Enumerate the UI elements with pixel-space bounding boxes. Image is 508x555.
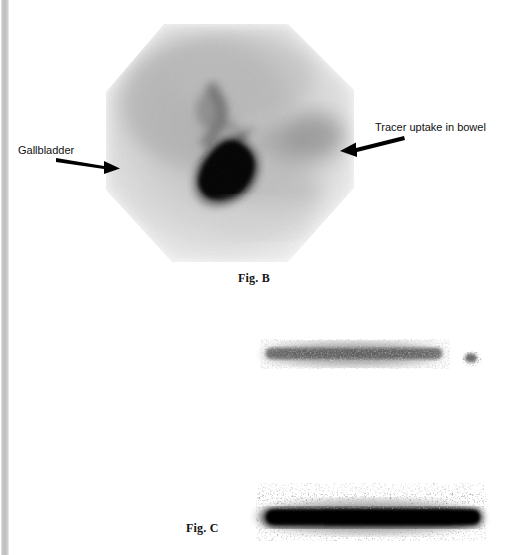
lower-band-dense: [266, 510, 480, 524]
figure-caption-c: Fig. C: [186, 521, 219, 536]
lower-band-upper-scatter: [258, 483, 484, 509]
scan-edge-artifact: [1, 0, 9, 555]
annotation-label-bowel: Tracer uptake in bowel: [375, 121, 486, 133]
scintigram-b-field: [92, 18, 372, 270]
figure-plate: Gallbladder Tracer uptake in bowel Fig. …: [0, 0, 508, 555]
annotation-arrow-bowel: [338, 134, 408, 160]
upper-band-satellite: [462, 351, 482, 367]
scintigram-b-canvas: [92, 18, 372, 270]
lower-band-group: [256, 483, 486, 541]
scintigram-c-canvas: [250, 325, 508, 553]
scintigram-b-noise-light: [92, 18, 372, 270]
upper-band-scatter: [260, 339, 450, 369]
scintigram-panel-b: [92, 18, 372, 270]
upper-band-group: [260, 339, 482, 369]
figure-caption-b: Fig. B: [238, 271, 270, 286]
annotation-arrow-gallbladder: [54, 152, 124, 178]
scintigram-panel-c: [250, 325, 508, 553]
